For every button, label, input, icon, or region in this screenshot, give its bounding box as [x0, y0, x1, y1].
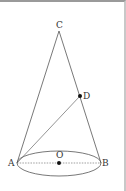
label-A: A — [7, 158, 15, 168]
label-B: B — [102, 158, 109, 168]
label-C: C — [56, 20, 63, 30]
segment-AD — [17, 96, 80, 163]
diagram-frame: C D A B O — [0, 0, 126, 191]
cone-diagram: C D A B O — [0, 2, 126, 191]
label-O: O — [56, 150, 63, 160]
point-O — [57, 161, 61, 165]
label-D: D — [83, 91, 90, 101]
edge-CA — [17, 31, 59, 163]
point-D — [78, 94, 82, 98]
